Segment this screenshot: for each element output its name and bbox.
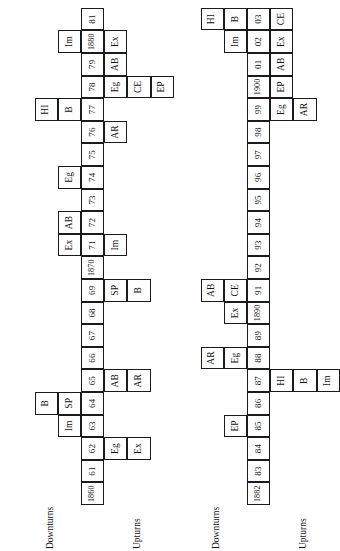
upturn-event-cell: AR (104, 121, 127, 144)
upturn-event-cell: AR (127, 369, 150, 392)
downturn-event-cell: Im (224, 30, 247, 53)
downturns-axis-label: Downturns (211, 507, 221, 549)
downturn-event-cell: Im (58, 415, 81, 438)
panel-2-rotated-canvas: 1882838485868788891890919293949596979899… (166, 0, 331, 551)
year-cell: 83 (247, 460, 270, 483)
year-cell: 77 (81, 98, 104, 121)
year-cell: 63 (81, 415, 104, 438)
year-cell: 87 (247, 369, 270, 392)
year-cell: 99 (247, 98, 270, 121)
timeline-panel-1: 1860616263646566676869187071727374757677… (0, 0, 166, 551)
panel-1-rotated-canvas: 1860616263646566676869187071727374757677… (0, 0, 166, 551)
year-cell: 69 (81, 279, 104, 302)
year-cell: 79 (81, 53, 104, 76)
downturn-event-cell: AB (201, 279, 224, 302)
upturn-event-cell: Ex (104, 30, 127, 53)
year-cell: 1890 (247, 302, 270, 325)
year-cell: 65 (81, 369, 104, 392)
year-cell: 78 (81, 76, 104, 99)
year-cell: 92 (247, 256, 270, 279)
upturn-event-cell: CE (127, 76, 150, 99)
upturn-event-cell: HI (270, 369, 293, 392)
year-cell: 64 (81, 392, 104, 415)
year-cell: 86 (247, 392, 270, 415)
timeline-panel-2: 1882838485868788891890919293949596979899… (166, 0, 331, 551)
upturn-event-cell: AB (104, 369, 127, 392)
upturn-event-cell: AB (270, 53, 293, 76)
downturns-axis-label: Downturns (45, 507, 55, 549)
downturn-event-cell: Ex (224, 302, 247, 325)
year-cell: 85 (247, 415, 270, 438)
year-cell: 67 (81, 324, 104, 347)
year-cell: 01 (247, 53, 270, 76)
downturn-event-cell: EP (224, 415, 247, 438)
upturn-event-cell: Eg (270, 98, 293, 121)
year-cell: 68 (81, 302, 104, 325)
year-cell: 61 (81, 460, 104, 483)
upturn-event-cell: Ex (270, 30, 293, 53)
downturn-event-cell: HI (201, 8, 224, 31)
year-cell: 76 (81, 121, 104, 144)
year-cell: 73 (81, 189, 104, 212)
downturn-event-cell: CE (224, 279, 247, 302)
year-cell: 75 (81, 143, 104, 166)
year-cell: 74 (81, 166, 104, 189)
upturn-event-cell: Im (317, 369, 340, 392)
year-cell: 96 (247, 166, 270, 189)
year-cell: 97 (247, 143, 270, 166)
year-cell: 1880 (81, 30, 104, 53)
downturn-event-cell: AR (201, 347, 224, 370)
downturn-event-cell: Eg (58, 166, 81, 189)
upturn-event-cell: CE (270, 8, 293, 31)
year-cell: 1860 (81, 482, 104, 505)
year-cell: 62 (81, 437, 104, 460)
year-cell: 98 (247, 121, 270, 144)
downturn-event-cell: Im (58, 30, 81, 53)
year-cell: 81 (81, 8, 104, 31)
upturns-axis-label: Upturns (298, 518, 308, 549)
downturn-event-cell: AB (58, 211, 81, 234)
year-cell: 91 (247, 279, 270, 302)
year-cell: 66 (81, 347, 104, 370)
downturn-event-cell: SP (58, 392, 81, 415)
downturn-event-cell: HI (35, 98, 58, 121)
upturn-event-cell: B (293, 369, 316, 392)
upturn-event-cell: AR (293, 98, 316, 121)
panel-2-track: 1882838485868788891890919293949596979899… (166, 0, 332, 551)
downturn-event-cell: B (224, 8, 247, 31)
upturn-event-cell: B (127, 279, 150, 302)
year-cell: 03 (247, 8, 270, 31)
year-cell: 89 (247, 324, 270, 347)
upturn-event-cell: SP (104, 279, 127, 302)
upturn-event-cell: EP (270, 76, 293, 99)
year-cell: 84 (247, 437, 270, 460)
year-cell: 1870 (81, 256, 104, 279)
upturn-event-cell: Im (104, 234, 127, 257)
downturn-event-cell: B (58, 98, 81, 121)
panel-1-track: 1860616263646566676869187071727374757677… (0, 0, 166, 551)
year-cell: 88 (247, 347, 270, 370)
upturn-event-cell: AB (104, 53, 127, 76)
upturns-axis-label: Upturns (132, 518, 142, 549)
downturn-event-cell: Ex (58, 234, 81, 257)
year-cell: 95 (247, 189, 270, 212)
downturn-event-cell: Eg (224, 347, 247, 370)
upturn-event-cell: Eg (104, 76, 127, 99)
year-cell: 71 (81, 234, 104, 257)
year-cell: 72 (81, 211, 104, 234)
year-cell: 02 (247, 30, 270, 53)
year-cell: 94 (247, 211, 270, 234)
downturn-event-cell: B (35, 392, 58, 415)
upturn-event-cell: Ex (127, 437, 150, 460)
year-cell: 1882 (247, 482, 270, 505)
year-cell: 1900 (247, 76, 270, 99)
upturn-event-cell: Eg (104, 437, 127, 460)
year-cell: 93 (247, 234, 270, 257)
